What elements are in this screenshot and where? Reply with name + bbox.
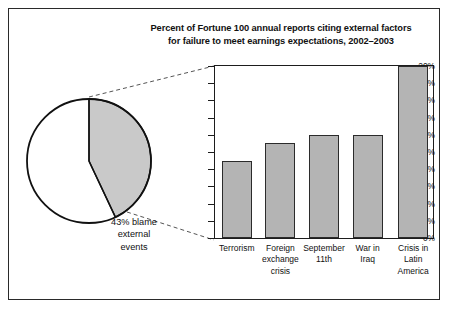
y-axis-tick-mark xyxy=(208,66,214,67)
y-axis-tick-mark xyxy=(208,204,214,205)
y-axis-tick-mark xyxy=(208,186,214,187)
pie-label-line-2: external xyxy=(97,228,171,240)
y-axis-tick-mark xyxy=(208,100,214,101)
bar-september-11th xyxy=(309,135,339,238)
x-axis-label-line: Crisis in xyxy=(386,243,440,254)
y-axis-tick-mark xyxy=(208,152,214,153)
pie-label-line-1: 43% blame xyxy=(97,216,171,228)
figure-frame: Percent of Fortune 100 annual reports ci… xyxy=(8,8,440,300)
bar-crisis-in-latin-america xyxy=(398,66,428,238)
bar-chart: 0%2%4%6%8%10%12%14%16%18%20% TerrorismFo… xyxy=(187,57,435,292)
x-axis-label-line: America xyxy=(386,266,440,277)
bar-series xyxy=(215,66,433,238)
bar-foreign-exchange-crisis xyxy=(265,143,295,238)
pie-chart: 43% blame external events xyxy=(19,91,159,231)
x-axis-label-line: Latin xyxy=(386,254,440,265)
y-axis-tick-mark xyxy=(208,238,214,239)
title-line-1: Percent of Fortune 100 annual reports ci… xyxy=(127,22,435,35)
bar-war-in-iraq xyxy=(353,135,383,238)
pie-slice-label: 43% blame external events xyxy=(97,216,171,253)
y-axis-tick-mark xyxy=(208,83,214,84)
y-axis-tick-mark xyxy=(208,118,214,119)
x-axis-label-line: crisis xyxy=(253,266,307,277)
y-axis-tick-mark xyxy=(208,221,214,222)
title-line-2: for failure to meet earnings expectation… xyxy=(127,35,435,48)
bar-terrorism xyxy=(222,161,252,238)
chart-title: Percent of Fortune 100 annual reports ci… xyxy=(127,22,435,47)
x-axis-label: Crisis inLatinAmerica xyxy=(386,243,440,277)
y-axis-tick-mark xyxy=(208,135,214,136)
y-axis-tick-mark xyxy=(208,169,214,170)
pie-label-line-3: events xyxy=(97,241,171,253)
